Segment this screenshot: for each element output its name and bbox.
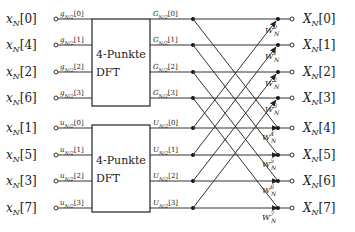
output-node-icon [290,153,294,157]
output-label: XN[7] [302,201,336,217]
input-node-icon [54,70,58,74]
output-label: XN[4] [302,121,336,137]
output-node-icon [290,126,294,130]
fft-butterfly-diagram: 4-Punkte DFT 4-Punkte DFT xN[0]gN/2[0]GN… [0,0,355,232]
dft-block-bottom-line1: 4-Punkte [96,154,146,167]
dft-block-top-line1: 4-Punkte [96,48,146,61]
output-label: XN[3] [302,91,336,107]
twiddle-label: W7N [262,210,277,224]
output-node-icon [290,43,294,47]
input-node-icon [54,153,58,157]
dft-block-top-line2: DFT [96,66,120,79]
dft-block-bottom-line2: DFT [96,172,120,185]
input-label: xN[5] [6,148,37,164]
input-label: xN[6] [6,91,37,107]
input-node-icon [54,96,58,100]
input-label: xN[0] [6,12,37,28]
butterfly-network: xN[0]gN/2[0]GN/2[0]XN[0]W0NxN[4]gN/2[1]G… [6,10,336,224]
output-label: XN[0] [302,12,336,28]
output-label: XN[6] [302,174,336,190]
output-node-icon [290,179,294,183]
input-label: xN[7] [6,201,37,217]
output-node-icon [290,206,294,210]
dft-block-top [92,19,150,106]
output-node-icon [290,70,294,74]
input-label: xN[3] [6,174,37,190]
input-node-icon [54,126,58,130]
input-label: xN[2] [6,65,37,81]
dft-block-bottom [92,125,150,212]
output-label: XN[2] [302,65,336,81]
output-node-icon [290,17,294,21]
input-node-icon [54,206,58,210]
input-label: xN[4] [6,38,37,54]
input-node-icon [54,17,58,21]
output-label: XN[1] [302,38,336,54]
output-label: XN[5] [302,148,336,164]
input-label: xN[1] [6,121,37,137]
input-node-icon [54,43,58,47]
output-node-icon [290,96,294,100]
input-node-icon [54,179,58,183]
